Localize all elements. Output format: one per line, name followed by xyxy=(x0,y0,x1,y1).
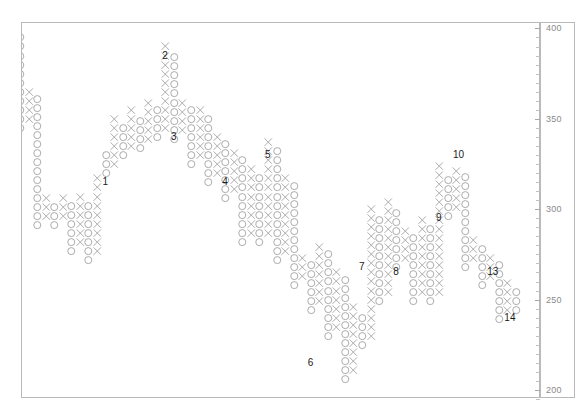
mark-o xyxy=(426,251,435,261)
y-tick-minor xyxy=(536,56,540,57)
mark-x xyxy=(93,210,102,220)
mark-o xyxy=(409,260,418,270)
mark-o xyxy=(341,320,350,330)
mark-o xyxy=(67,228,76,238)
mark-o xyxy=(33,148,42,158)
mark-x xyxy=(349,329,358,339)
mark-o xyxy=(33,211,42,221)
mark-x xyxy=(384,215,393,225)
mark-x xyxy=(213,150,222,160)
mark-x xyxy=(384,197,393,207)
mark-o xyxy=(204,177,213,187)
mark-x xyxy=(76,237,85,247)
mark-o xyxy=(170,79,179,89)
mark-o xyxy=(238,210,247,220)
mark-x xyxy=(401,244,410,254)
y-tick-label: 400 xyxy=(546,23,562,33)
mark-x xyxy=(25,114,34,124)
mark-o xyxy=(426,287,435,297)
mark-o xyxy=(324,313,333,323)
mark-o xyxy=(461,262,470,272)
mark-o xyxy=(255,219,264,229)
mark-x xyxy=(93,219,102,229)
mark-x xyxy=(247,219,256,229)
mark-o xyxy=(170,88,179,98)
mark-x xyxy=(332,322,341,332)
y-tick-major xyxy=(535,209,540,210)
mark-x xyxy=(452,202,461,212)
mark-x xyxy=(384,260,393,270)
mark-x xyxy=(315,287,324,297)
mark-o xyxy=(102,150,111,160)
mark-x xyxy=(332,313,341,323)
mark-o xyxy=(324,331,333,341)
mark-x xyxy=(161,87,170,97)
mark-x xyxy=(127,132,136,142)
mark-x xyxy=(110,141,119,151)
mark-x xyxy=(384,251,393,261)
mark-o xyxy=(290,190,299,200)
mark-x xyxy=(367,276,376,286)
mark-o xyxy=(290,244,299,254)
mark-x xyxy=(93,237,102,247)
mark-x xyxy=(247,192,256,202)
mark-o xyxy=(409,287,418,297)
y-tick-label: 250 xyxy=(546,295,562,305)
mark-x xyxy=(161,78,170,88)
mark-o xyxy=(512,296,521,306)
mark-x xyxy=(281,237,290,247)
mark-x xyxy=(161,123,170,133)
mark-o xyxy=(136,143,145,153)
mark-x xyxy=(110,150,119,160)
mark-o xyxy=(273,173,282,183)
mark-x xyxy=(349,302,358,312)
mark-o xyxy=(136,134,145,144)
mark-o xyxy=(187,141,196,151)
mark-x xyxy=(452,175,461,185)
mark-x xyxy=(367,204,376,214)
mark-x xyxy=(503,296,512,306)
mark-x xyxy=(93,201,102,211)
mark-x xyxy=(503,278,512,288)
mark-x xyxy=(76,228,85,238)
signal-label-14: 14 xyxy=(504,313,515,323)
signal-label-13: 13 xyxy=(487,267,498,277)
point-and-figure-chart: 123456789101314 400350300250200 xyxy=(0,0,582,419)
mark-x xyxy=(127,123,136,133)
mark-o xyxy=(426,296,435,306)
mark-x xyxy=(469,253,478,263)
mark-o xyxy=(392,217,401,227)
mark-o xyxy=(290,253,299,263)
mark-o xyxy=(495,287,504,297)
y-tick-minor xyxy=(536,282,540,283)
mark-o xyxy=(50,220,59,230)
mark-o xyxy=(461,199,470,209)
y-tick-label: 350 xyxy=(546,114,562,124)
mark-o xyxy=(426,260,435,270)
mark-o xyxy=(204,168,213,178)
y-tick-minor xyxy=(536,218,540,219)
mark-x xyxy=(247,201,256,211)
mark-o xyxy=(478,244,487,254)
mark-o xyxy=(84,246,93,256)
mark-x xyxy=(281,201,290,211)
signal-label-4: 4 xyxy=(222,177,228,187)
mark-o xyxy=(170,70,179,80)
mark-o xyxy=(358,331,367,341)
y-tick-minor xyxy=(536,227,540,228)
mark-x xyxy=(384,269,393,279)
mark-x xyxy=(110,132,119,142)
y-tick-minor xyxy=(536,381,540,382)
mark-o xyxy=(324,295,333,305)
mark-x xyxy=(127,114,136,124)
mark-x xyxy=(25,87,34,97)
mark-x xyxy=(76,210,85,220)
mark-o xyxy=(273,146,282,156)
y-tick-minor xyxy=(536,128,540,129)
mark-o xyxy=(461,244,470,254)
mark-o xyxy=(495,305,504,315)
y-axis-panel: 400350300250200 xyxy=(540,22,575,398)
y-tick-major xyxy=(535,28,540,29)
y-tick-minor xyxy=(536,354,540,355)
mark-o xyxy=(307,287,316,297)
